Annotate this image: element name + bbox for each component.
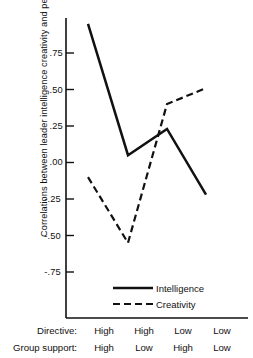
category-cell: High: [163, 342, 203, 353]
category-cell: Low: [202, 342, 242, 353]
chart-figure: Correlations between leader intelligence…: [0, 0, 253, 358]
legend-label-intelligence: Intelligence: [156, 283, 204, 294]
line-series-intelligence: [88, 24, 206, 195]
category-cell: High: [124, 325, 164, 336]
category-cell: High: [84, 342, 124, 353]
chart-plot: [0, 0, 253, 358]
category-cell: Low: [202, 325, 242, 336]
category-cell: Low: [163, 325, 203, 336]
category-row-title-group-support: Group support:: [0, 342, 77, 353]
legend-label-creativity: Creativity: [156, 299, 196, 310]
category-cell: Low: [124, 342, 164, 353]
category-cell: High: [84, 325, 124, 336]
category-row-title-directive: Directive:: [0, 325, 77, 336]
